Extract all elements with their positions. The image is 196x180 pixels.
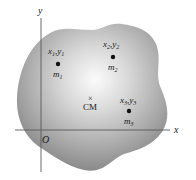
y-axis-label: y <box>37 5 43 16</box>
center-of-mass-diagram: y x O x1,y1 m1 x2,y2 m2 × CM x3,y3 m3 <box>0 0 196 180</box>
origin-label: O <box>42 134 49 145</box>
x-axis-label: x <box>173 124 179 135</box>
mass-dot-2 <box>111 55 115 59</box>
cm-label: CM <box>83 102 97 112</box>
mass-dot-1 <box>56 62 60 66</box>
mass-dot-3 <box>127 109 131 113</box>
